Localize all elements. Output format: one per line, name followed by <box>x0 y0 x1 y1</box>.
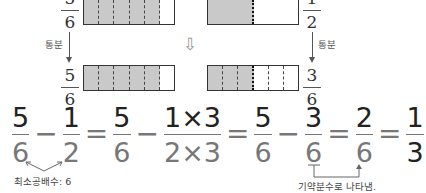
fraction-5-6: 5 6 <box>10 103 31 168</box>
bar-part <box>269 66 284 90</box>
bar-part <box>223 66 238 90</box>
numerator: 5 <box>12 103 29 132</box>
numerator: 2 <box>356 103 373 132</box>
denominator: 3 <box>406 138 423 167</box>
fraction-top-left: 5 6 <box>61 0 79 31</box>
denominator: 2 <box>303 14 321 31</box>
denominator: 6 <box>113 138 130 167</box>
numerator: 5 <box>61 0 79 7</box>
bar-top-right <box>207 0 299 25</box>
equation: 5 6 − 1 2 = 5 6 − 1×3 2×3 = 5 6 − 3 6 = … <box>10 100 426 170</box>
numerator: 3 <box>305 103 322 132</box>
outline-down-arrow-icon: ⇩ <box>183 34 197 54</box>
minus-sign: − <box>31 117 60 150</box>
fraction-5-6: 5 6 <box>111 103 132 168</box>
bar-part <box>145 0 160 24</box>
fraction-line <box>164 134 221 136</box>
arrow-line-left <box>69 32 70 58</box>
label-common-denominator-left: 통분 <box>45 37 63 51</box>
bar-part <box>284 66 298 90</box>
bar-part <box>208 66 223 90</box>
fraction-line <box>61 87 79 88</box>
lcm-arrows-icon <box>20 160 70 174</box>
fraction-line <box>356 134 373 136</box>
fraction-line <box>63 134 80 136</box>
denominator: 6 <box>61 14 79 31</box>
numerator: 3 <box>303 67 321 84</box>
fraction-line <box>305 134 322 136</box>
fraction-line <box>254 134 271 136</box>
minus-sign: − <box>274 117 303 150</box>
bar-bottom-right <box>207 65 299 91</box>
bar-bottom-left <box>83 65 175 91</box>
bar-part <box>114 0 129 24</box>
numerator: 1 <box>406 103 423 132</box>
bar-part <box>84 66 99 90</box>
equals-sign: = <box>82 117 111 150</box>
fraction-1-3: 1 3 <box>404 103 425 168</box>
arrow-line-right <box>312 32 313 58</box>
numerator: 1 <box>303 0 321 7</box>
bar-part <box>99 0 114 24</box>
numerator: 5 <box>113 103 130 132</box>
arrow-down-icon <box>66 57 72 63</box>
fraction-line <box>303 10 321 11</box>
bar-part <box>254 66 269 90</box>
fraction-line <box>12 134 29 136</box>
arrow-down-icon <box>309 57 315 63</box>
numerator: 5 <box>254 103 271 132</box>
equals-sign: = <box>324 117 353 150</box>
numerator: 5 <box>61 67 79 84</box>
bar-part <box>160 0 174 24</box>
numerator: 1×3 <box>164 103 221 132</box>
fraction-line <box>61 10 79 11</box>
bar-part <box>145 66 160 90</box>
numerator: 1 <box>63 103 80 132</box>
bar-top-left <box>83 0 175 25</box>
bar-part <box>160 66 174 90</box>
fraction-3-6: 3 6 <box>303 103 324 168</box>
reduce-note: 기약분수로 나타냄. <box>298 179 376 193</box>
bar-part <box>130 66 145 90</box>
label-common-denominator-right: 통분 <box>318 37 336 51</box>
fraction-5-6: 5 6 <box>252 103 273 168</box>
equals-sign: = <box>223 117 252 150</box>
bar-part <box>238 66 254 90</box>
fraction-top-right: 1 2 <box>303 0 321 31</box>
fraction-1-2: 1 2 <box>61 103 82 168</box>
bar-part <box>99 66 114 90</box>
bar-part <box>208 0 254 24</box>
lcm-note: 최소공배수: 6 <box>14 174 71 188</box>
denominator: 6 <box>254 138 271 167</box>
equals-sign: = <box>375 117 404 150</box>
fraction-line <box>406 134 423 136</box>
bar-part <box>114 66 129 90</box>
bar-part <box>254 0 298 24</box>
fraction-line <box>113 134 130 136</box>
fraction-line <box>303 87 321 88</box>
bar-part <box>84 0 99 24</box>
fraction-1x3-2x3: 1×3 2×3 <box>162 103 223 168</box>
denominator: 2×3 <box>164 138 221 167</box>
minus-sign: − <box>133 117 162 150</box>
bar-part <box>130 0 145 24</box>
fraction-2-6: 2 6 <box>354 103 375 168</box>
